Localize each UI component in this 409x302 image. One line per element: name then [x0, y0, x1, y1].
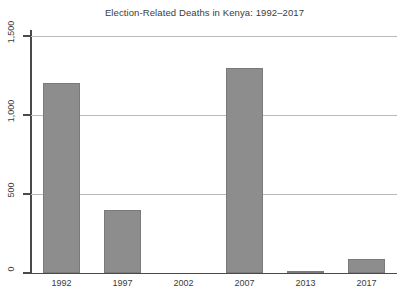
y-tick-500: [23, 193, 31, 194]
y-tick-1000: [23, 114, 31, 115]
bar-1992[interactable]: [43, 83, 80, 273]
bar-2007[interactable]: [226, 68, 263, 273]
chart-title: Election-Related Deaths in Kenya: 1992–2…: [0, 7, 409, 18]
bar-slot-1997: [92, 36, 153, 273]
plot-area: [31, 36, 397, 273]
y-tick-label: 1,500: [0, 27, 22, 37]
y-tick-1500: [23, 35, 31, 36]
bar-slot-2007: [214, 36, 275, 273]
x-tick-label-2013: 2013: [275, 278, 336, 288]
y-tick-0: [23, 272, 31, 273]
y-tick-label-text: 0: [6, 266, 16, 271]
bar-2017[interactable]: [348, 259, 385, 273]
x-tick-label-2007: 2007: [214, 278, 275, 288]
x-tick-label-1992: 1992: [31, 278, 92, 288]
bar-slot-2002: [153, 36, 214, 273]
y-tick-label: 1,000: [0, 106, 22, 116]
bar-chart: Election-Related Deaths in Kenya: 1992–2…: [0, 0, 409, 302]
x-tick-label-2002: 2002: [153, 278, 214, 288]
y-tick-label-text: 1,000: [6, 100, 16, 123]
bar-2013[interactable]: [287, 271, 324, 273]
x-tick-label-1997: 1997: [92, 278, 153, 288]
bar-slot-2013: [275, 36, 336, 273]
bar-1997[interactable]: [104, 210, 141, 273]
bar-slot-2017: [336, 36, 397, 273]
x-tick-label-2017: 2017: [336, 278, 397, 288]
y-tick-label: 0: [0, 264, 22, 274]
y-tick-label-text: 500: [6, 182, 16, 197]
y-tick-label: 500: [0, 185, 22, 195]
bar-slot-1992: [31, 36, 92, 273]
y-tick-label-text: 1,500: [6, 21, 16, 44]
